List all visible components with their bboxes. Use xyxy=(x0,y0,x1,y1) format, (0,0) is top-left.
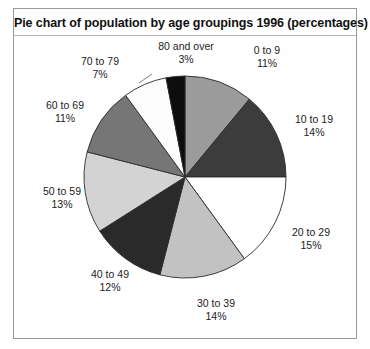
slice-label-0-to-9-pct: 11% xyxy=(232,57,302,70)
pie-chart xyxy=(82,74,288,280)
chart-page: Pie chart of population by age groupings… xyxy=(0,0,370,349)
slice-label-50-to-59: 50 to 59 13% xyxy=(26,185,98,211)
slice-label-20-to-29: 20 to 29 15% xyxy=(275,226,347,252)
slice-label-80-and-over-name: 80 and over xyxy=(158,40,213,52)
slice-label-10-to-19-name: 10 to 19 xyxy=(295,113,333,125)
pie-chart-svg xyxy=(82,74,288,280)
slice-label-0-to-9-name: 0 to 9 xyxy=(254,44,280,56)
chart-title: Pie chart of population by age groupings… xyxy=(14,16,356,30)
slice-label-70-to-79-name: 70 to 79 xyxy=(81,55,119,67)
slice-label-30-to-39: 30 to 39 14% xyxy=(180,297,252,323)
slice-label-40-to-49: 40 to 49 12% xyxy=(74,268,146,294)
slice-label-80-and-over: 80 and over 3% xyxy=(141,40,231,66)
slice-label-70-to-79: 70 to 79 7% xyxy=(64,55,136,81)
slice-label-20-to-29-pct: 15% xyxy=(275,239,347,252)
slice-label-10-to-19: 10 to 19 14% xyxy=(278,113,350,139)
slice-label-30-to-39-pct: 14% xyxy=(180,310,252,323)
slice-label-60-to-69: 60 to 69 11% xyxy=(29,99,101,125)
slice-label-70-to-79-pct: 7% xyxy=(64,68,136,81)
slice-label-60-to-69-pct: 11% xyxy=(29,112,101,125)
slice-label-10-to-19-pct: 14% xyxy=(278,126,350,139)
slice-label-40-to-49-name: 40 to 49 xyxy=(91,268,129,280)
slice-label-50-to-59-pct: 13% xyxy=(26,198,98,211)
slice-label-50-to-59-name: 50 to 59 xyxy=(43,185,81,197)
slice-label-30-to-39-name: 30 to 39 xyxy=(197,297,235,309)
title-divider xyxy=(14,35,356,36)
slice-label-80-and-over-pct: 3% xyxy=(141,53,231,66)
slice-label-40-to-49-pct: 12% xyxy=(74,281,146,294)
slice-label-20-to-29-name: 20 to 29 xyxy=(292,226,330,238)
slice-label-60-to-69-name: 60 to 69 xyxy=(46,99,84,111)
slice-label-0-to-9: 0 to 9 11% xyxy=(232,44,302,70)
